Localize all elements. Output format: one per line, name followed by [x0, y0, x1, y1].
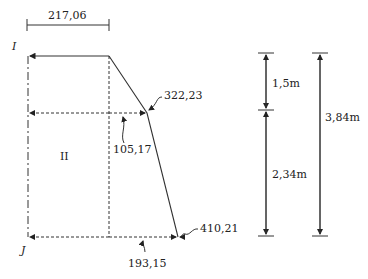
value-mid-right: 322,23 [164, 90, 203, 101]
leaders [123, 97, 198, 252]
height-total: 3,84m [325, 112, 360, 123]
point-label-i: I [12, 41, 16, 52]
region-label: II [60, 151, 69, 162]
diagram-canvas [0, 0, 368, 279]
value-bottom-right: 410,21 [200, 223, 239, 234]
pressure-outline [30, 56, 178, 237]
value-mid-inner: 105,17 [113, 144, 152, 155]
point-label-j: J [21, 245, 25, 256]
value-bottom-inner: 193,15 [128, 258, 167, 269]
height-lower: 2,34m [272, 169, 307, 180]
top-dimension-label: 217,06 [48, 10, 87, 21]
height-upper: 1,5m [272, 78, 300, 89]
